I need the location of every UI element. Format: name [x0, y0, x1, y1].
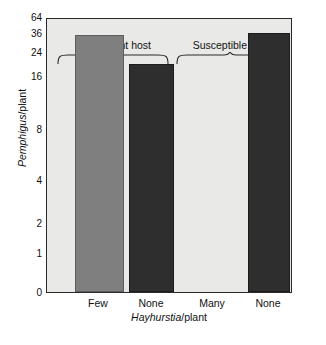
y-tick-label-8: 8	[36, 125, 42, 135]
y-tick-label-16: 16	[31, 72, 42, 82]
x-axis-title-genus: Hayhurstia	[131, 311, 181, 323]
x-tick-label-many: Many	[199, 297, 225, 309]
y-axis-title-suffix: /plant	[16, 89, 28, 115]
y-tick-label-24: 24	[31, 48, 42, 58]
x-tick-label-none-2: None	[255, 297, 280, 309]
plot-area: Resistant host Susceptible host	[46, 18, 292, 293]
y-axis-title: Pemphigus/plant	[16, 68, 28, 188]
y-axis-title-genus: Pemphigus	[16, 115, 28, 168]
bar-none-susceptible	[248, 33, 290, 292]
x-tick-label-none-1: None	[138, 297, 163, 309]
y-tick-label-1: 1	[36, 249, 42, 259]
y-tick-label-0: 0	[36, 288, 42, 298]
x-tick-label-few: Few	[88, 297, 108, 309]
bar-few-resistant	[75, 35, 124, 292]
chart-figure: 64 36 24 16 8 4 2 1 0 Pemphigus/plant Re…	[0, 0, 326, 345]
y-tick-label-36: 36	[31, 29, 42, 39]
y-tick-label-64: 64	[31, 13, 42, 23]
x-axis-title-suffix: /plant	[181, 311, 207, 323]
x-axis-title: Hayhurstia/plant	[46, 311, 292, 323]
y-tick-label-2: 2	[36, 219, 42, 229]
y-tick-label-4: 4	[36, 176, 42, 186]
bar-none-resistant	[129, 64, 174, 292]
